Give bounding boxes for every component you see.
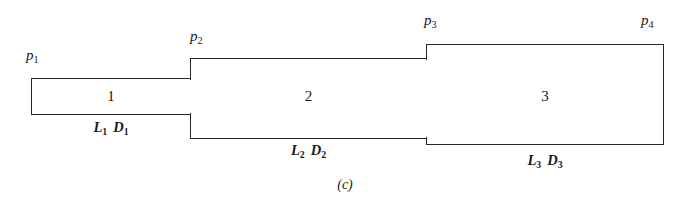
length-subscript-1: 1 — [102, 126, 107, 137]
pressure-symbol-p4: p — [641, 12, 649, 28]
length-symbol-1: L — [93, 119, 102, 135]
pressure-subscript-p3: 3 — [432, 19, 437, 30]
diameter-subscript-2: 2 — [321, 149, 326, 160]
pipe-number-2: 2 — [190, 89, 427, 104]
pressure-symbol-p1: p — [26, 47, 34, 63]
pipe-number-3: 3 — [426, 89, 664, 104]
length-symbol-2: L — [291, 142, 300, 158]
length-symbol-3: L — [527, 152, 536, 168]
pipes-in-series-diagram: 1 2 3 p1 p2 p3 p4 L1D1 L2D2 L3D3 (c) — [0, 0, 690, 206]
pipe-number-1: 1 — [31, 89, 191, 104]
pressure-label-p2: p2 — [190, 29, 203, 44]
pressure-label-p3: p3 — [424, 13, 437, 28]
pressure-label-p4: p4 — [641, 13, 654, 28]
pressure-subscript-p1: 1 — [34, 54, 39, 65]
length-subscript-3: 3 — [536, 159, 541, 170]
pressure-subscript-p4: 4 — [649, 19, 654, 30]
pressure-symbol-p2: p — [190, 28, 198, 44]
diameter-subscript-1: 1 — [124, 126, 129, 137]
length-diameter-label-1: L1D1 — [31, 120, 191, 135]
figure-caption: (c) — [0, 178, 690, 192]
pressure-symbol-p3: p — [424, 12, 432, 28]
diameter-subscript-3: 3 — [558, 159, 563, 170]
diameter-symbol-1: D — [113, 119, 123, 135]
length-subscript-2: 2 — [300, 149, 305, 160]
length-diameter-label-2: L2D2 — [190, 143, 427, 158]
length-diameter-label-3: L3D3 — [426, 153, 664, 168]
diameter-symbol-3: D — [547, 152, 557, 168]
pressure-subscript-p2: 2 — [198, 35, 203, 46]
diameter-symbol-2: D — [311, 142, 321, 158]
pressure-label-p1: p1 — [26, 48, 39, 63]
